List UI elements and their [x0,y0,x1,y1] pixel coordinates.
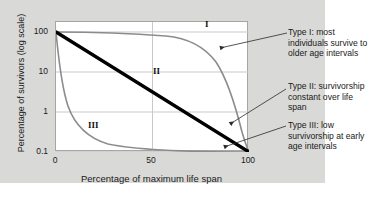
x-axis-title: Percentage of maximum life span [55,173,248,184]
survivorship-curve-figure: 100 10 1 0.1 0 50 100 Percentage of surv… [0,0,389,198]
x-tick-label-0: 0 [40,155,70,165]
annotation-type-1: Type I: most individuals survive to olde… [288,27,376,59]
annotation-type-2: Type II: survivorship constant over life… [288,81,376,113]
y-axis-title: Percentage of survivors (log scale) [16,8,26,158]
x-tick-label-100: 100 [233,155,263,165]
plot-area [55,21,248,151]
annotation-type-3: Type III: low survivorship at early age … [288,120,376,152]
curve-label-type-2: II [153,66,160,76]
curves-svg [56,22,249,152]
curve-label-type-3: III [88,120,99,130]
x-tick-label-50: 50 [136,155,166,165]
curve-label-type-1: I [205,19,209,29]
